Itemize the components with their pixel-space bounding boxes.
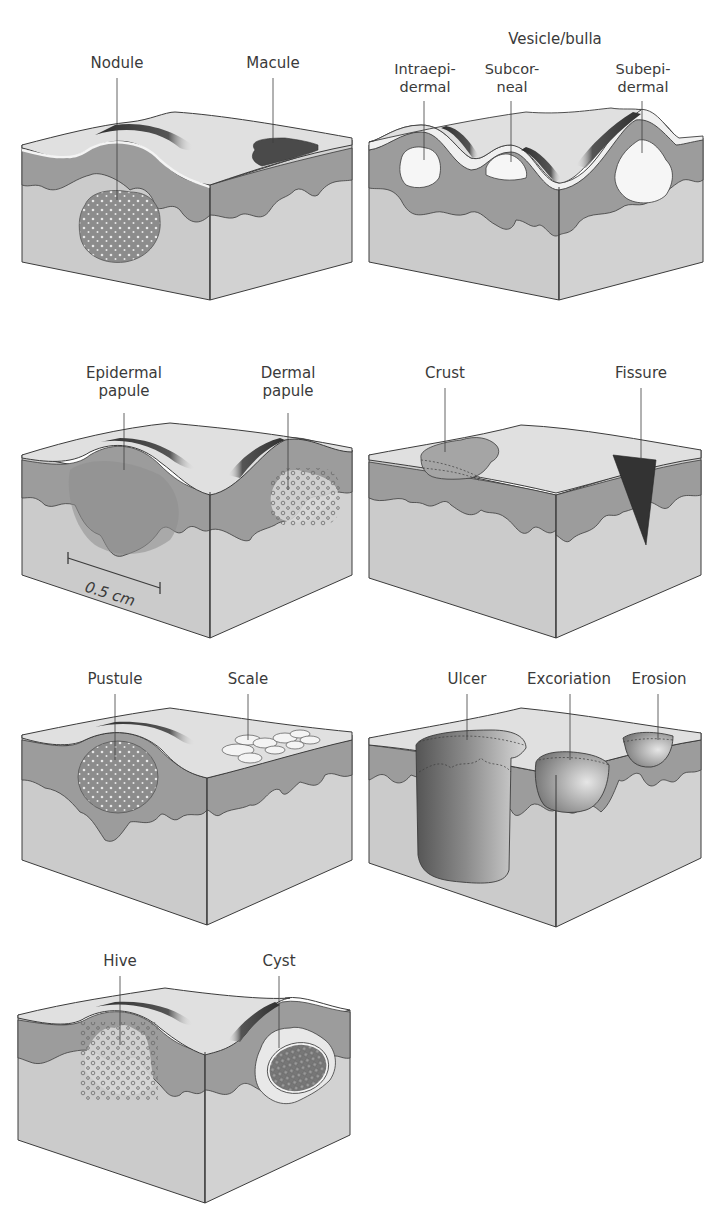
skin-block-diagram bbox=[0, 940, 361, 1216]
panel-vesicle-bulla: Vesicle/bulla Intraepi- dermal Subcor- n… bbox=[361, 0, 722, 300]
skin-block-diagram bbox=[361, 340, 722, 640]
label-pustule: Pustule bbox=[88, 670, 143, 688]
label-nodule: Nodule bbox=[91, 54, 144, 72]
skin-block-diagram bbox=[0, 650, 361, 940]
label-dermal-papule: Dermal papule bbox=[261, 364, 316, 400]
label-excoriation: Excoriation bbox=[527, 670, 611, 688]
label-macule: Macule bbox=[246, 54, 299, 72]
label-scale: Scale bbox=[228, 670, 268, 688]
label-subepidermal: Subepi- dermal bbox=[616, 60, 671, 96]
label-erosion: Erosion bbox=[631, 670, 686, 688]
panel-hive-cyst: Hive Cyst bbox=[0, 940, 361, 1216]
label-vesicle-bulla: Vesicle/bulla bbox=[508, 30, 602, 48]
label-crust: Crust bbox=[425, 364, 465, 382]
panel-nodule-macule: Nodule Macule bbox=[0, 0, 361, 300]
skin-block-diagram bbox=[0, 0, 361, 300]
label-cyst: Cyst bbox=[262, 952, 295, 970]
label-subcorneal: Subcor- neal bbox=[485, 60, 540, 96]
panel-papules: Epidermal papule Dermal papule 0.5 cm bbox=[0, 340, 361, 640]
label-ulcer: Ulcer bbox=[448, 670, 487, 688]
label-epidermal-papule: Epidermal papule bbox=[86, 364, 162, 400]
skin-block-diagram bbox=[361, 650, 722, 940]
panel-pustule-scale: Pustule Scale bbox=[0, 650, 361, 950]
label-intraepidermal: Intraepi- dermal bbox=[394, 60, 455, 96]
label-fissure: Fissure bbox=[615, 364, 667, 382]
panel-ulcer-excoriation-erosion: Ulcer Excoriation Erosion bbox=[361, 650, 722, 950]
label-hive: Hive bbox=[103, 952, 137, 970]
panel-crust-fissure: Crust Fissure bbox=[361, 340, 722, 640]
